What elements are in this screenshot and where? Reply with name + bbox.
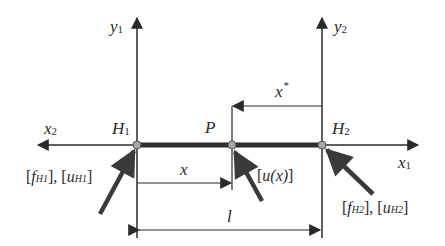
x1-axis-label: x1 bbox=[397, 153, 411, 172]
l-dimension-label: l bbox=[227, 207, 232, 226]
force-arrow-h2 bbox=[327, 150, 373, 194]
beam-diagram: y1 y2 x2 x1 x* x l H1 P H2 [fH1], [uH1] … bbox=[0, 0, 445, 246]
y2-axis-label: y2 bbox=[332, 17, 347, 36]
load-label-h2: [fH2], [uH2] bbox=[342, 199, 408, 217]
x-star-label: x* bbox=[274, 79, 289, 101]
load-label-h1: [fH1], [uH1] bbox=[26, 168, 92, 186]
node-p bbox=[228, 141, 236, 149]
node-h2-label: H2 bbox=[331, 119, 350, 138]
force-arrow-h1 bbox=[100, 151, 134, 214]
x-dimension-label: x bbox=[179, 160, 188, 179]
node-p-label: P bbox=[204, 118, 215, 137]
node-h1 bbox=[133, 141, 141, 149]
load-label-p: [u(x)] bbox=[257, 167, 293, 185]
y1-axis-label: y1 bbox=[108, 17, 123, 36]
node-h2 bbox=[318, 141, 326, 149]
x2-axis-label: x2 bbox=[43, 119, 57, 138]
node-h1-label: H1 bbox=[111, 119, 130, 138]
